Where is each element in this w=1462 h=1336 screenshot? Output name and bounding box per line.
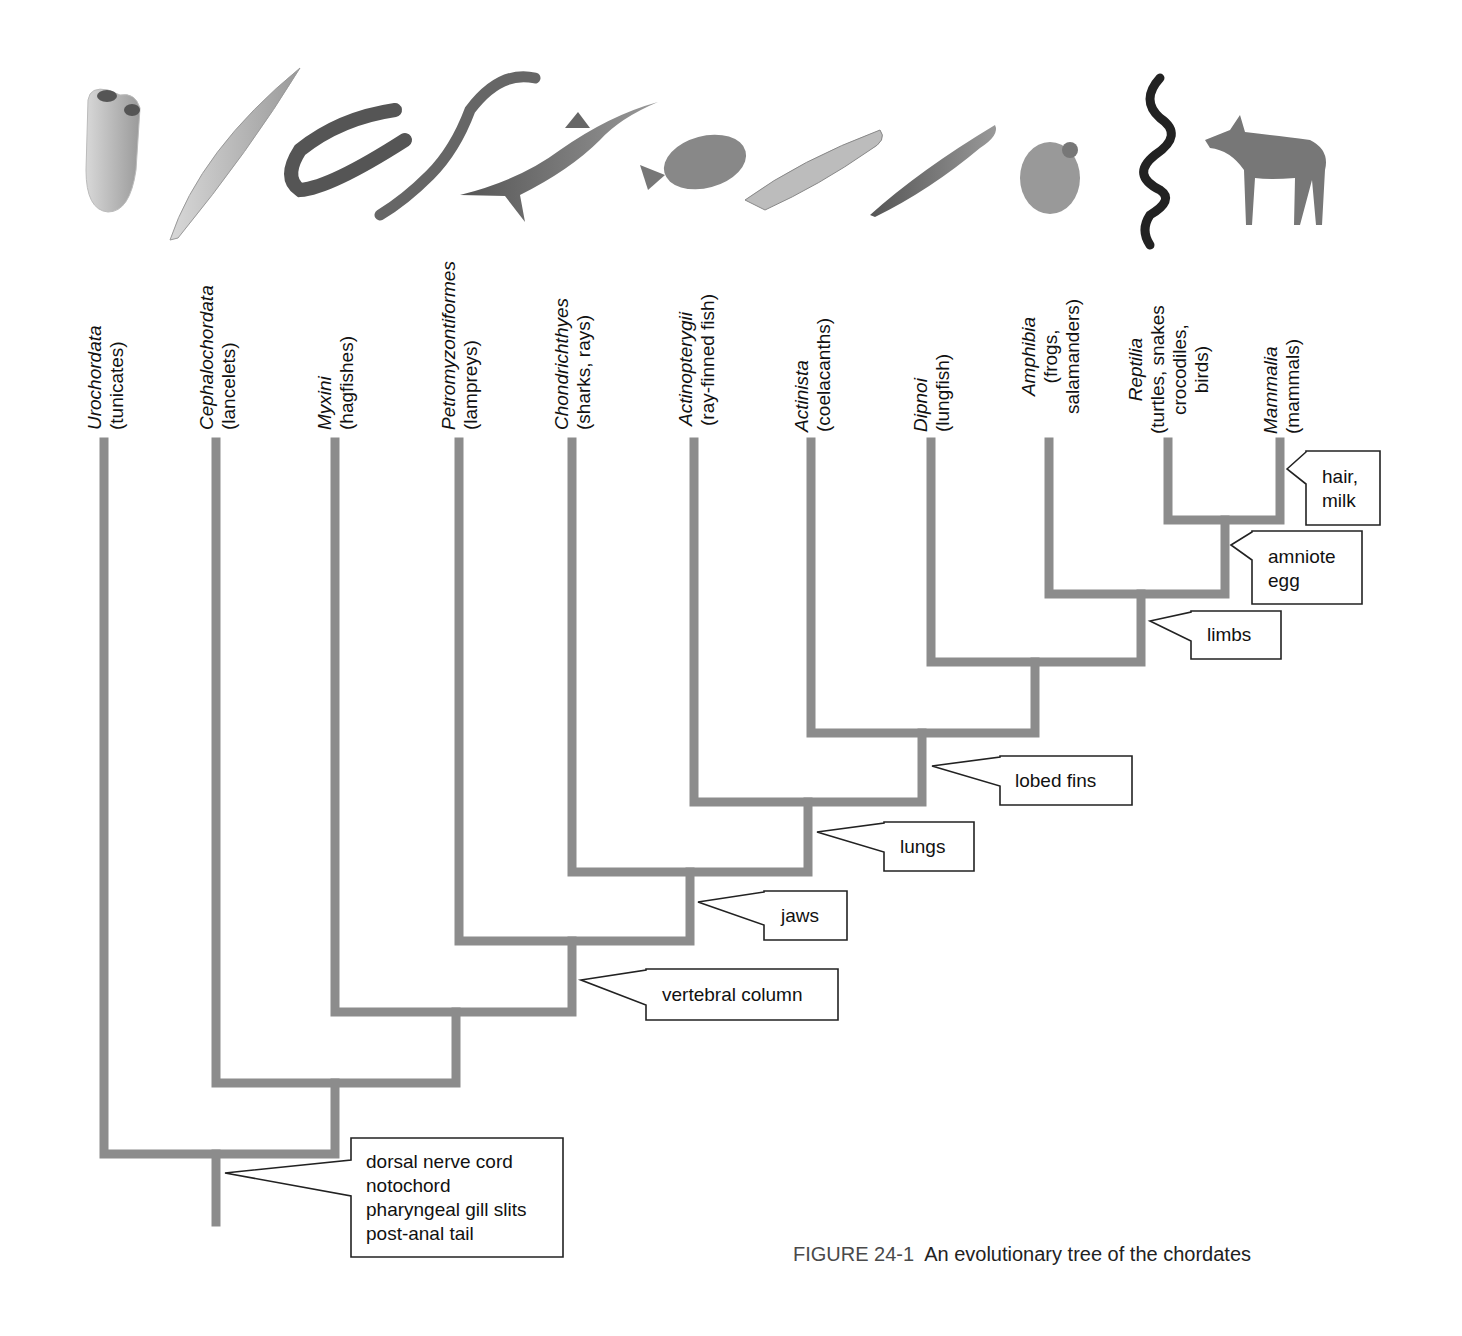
figure-title: An evolutionary tree of the chordates <box>924 1243 1251 1265</box>
trait-hair-milk: hair, milk <box>1322 465 1358 513</box>
branch-mammalia-reptilia <box>1168 442 1280 520</box>
taxon-cephalochordata: Cephalochordata (lancelets) <box>196 285 240 430</box>
trait-vertebral-column: vertebral column <box>662 983 802 1007</box>
branch-tetrapoda <box>931 442 1141 662</box>
callout-lungs <box>817 822 974 871</box>
taxon-myxini: Myxini (hagfishes) <box>314 336 358 430</box>
figure-caption: FIGURE 24-1An evolutionary tree of the c… <box>793 1243 1251 1266</box>
taxon-urochordata: Urochordata (tunicates) <box>84 325 128 430</box>
trait-chordate: dorsal nerve cord notochord pharyngeal g… <box>366 1150 527 1246</box>
taxon-chondrichthyes: Chondrichthyes (sharks, rays) <box>551 298 595 430</box>
branch-vertebrata <box>335 442 572 1012</box>
callout-jaws <box>698 891 847 940</box>
taxon-dipnoi: Dipnoi (lungfish) <box>910 354 954 432</box>
trait-amniote-egg: amniote egg <box>1268 545 1336 593</box>
trait-lobed-fins: lobed fins <box>1015 769 1096 793</box>
phylogenetic-tree-branches <box>0 0 1462 1336</box>
chordate-evolutionary-tree-figure: dorsal nerve cord notochord pharyngeal g… <box>0 0 1462 1336</box>
taxon-actinopterygii: Actinopterygii (ray-finned fish) <box>675 294 719 426</box>
taxon-actinista: Actinista (coelacanths) <box>791 318 835 432</box>
trait-limbs: limbs <box>1207 623 1251 647</box>
taxon-mammalia: Mammalia (mammals) <box>1260 339 1304 434</box>
figure-number: FIGURE 24-1 <box>793 1243 914 1265</box>
trait-lungs: lungs <box>900 835 945 859</box>
taxon-amphibia: Amphibia (frogs, salamanders) <box>1018 299 1084 414</box>
branch-lung-tetrapods <box>811 442 1035 733</box>
trait-jaws: jaws <box>781 904 819 928</box>
taxon-petromyzontiformes: Petromyzontiformes (lampreys) <box>438 261 482 430</box>
taxon-reptilia: Reptilia (turtles, snakes crocodiles, bi… <box>1125 305 1213 434</box>
